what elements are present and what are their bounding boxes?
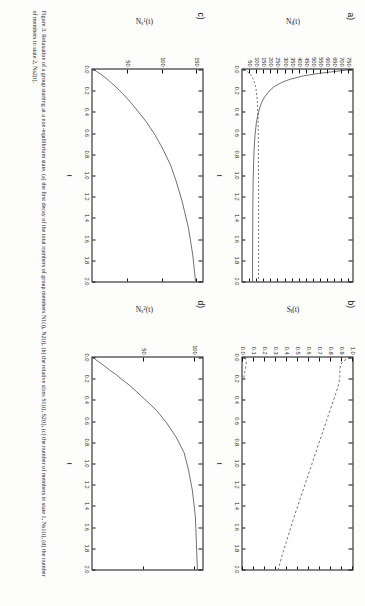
panel-a-label: a): [345, 12, 355, 20]
panel-d-xtick-mark: [92, 399, 96, 400]
panel-b-xtick-mark: [242, 399, 246, 400]
panel-c-xtick-mark-top: [199, 90, 203, 91]
panel-c-label: c): [195, 12, 205, 19]
panel-a-ytick-label: 300: [282, 57, 288, 69]
panel-b-xtick-mark-top: [349, 442, 353, 443]
panel-b-xtick-label: 0.4: [233, 396, 242, 404]
panel-b-xtick-mark-top: [349, 505, 353, 506]
panel-d-xtick-mark-top: [199, 378, 203, 379]
panel-c-ytick-mark-right: [126, 278, 127, 282]
panel-b-ytick-label: 0.3: [272, 346, 278, 357]
panel-c-plot-box: 50100150 0.00.20.40.60.81.01.21.41.61.82…: [91, 68, 203, 282]
panel-a-ytick-mark-right: [320, 278, 321, 282]
panel-d-xtick-mark: [92, 505, 96, 506]
panel-d-ytick-mark-right: [193, 566, 194, 570]
panel-c-xtick-mark-top: [199, 111, 203, 112]
panel-b-xtick-label: 0.2: [233, 374, 242, 382]
panel-b-xtick-label: 0.6: [233, 417, 242, 425]
panel-a-ytick-label: 550: [317, 57, 323, 69]
panel-a-xtick-label: 0.4: [233, 108, 242, 116]
panel-d-xtick-label: 0.2: [83, 374, 92, 382]
panel-d-ytick-mark: [193, 357, 194, 361]
panel-a-ytick-mark: [341, 69, 342, 73]
panel-a-ytick-mark-right: [348, 278, 349, 282]
panel-b-xtick-label: 1.0: [233, 459, 242, 467]
panel-b-ytick-mark-right: [319, 566, 320, 570]
panel-c-xtick-mark: [92, 196, 96, 197]
panel-d-xtick-mark-top: [199, 399, 203, 400]
panel-b-ytick-mark-right: [341, 566, 342, 570]
panel-a-xtick-mark-top: [349, 217, 353, 218]
panel-b: b) Si(t) 0.00.10.20.30.40.50.60.70.80.91…: [209, 300, 355, 576]
panel-b-xlabel: t: [214, 356, 223, 570]
panel-d-series-ns2: [93, 357, 197, 569]
panel-b-ytick-label: 1.0: [349, 346, 355, 357]
panel-b-xtick-mark: [242, 378, 246, 379]
panel-b-xtick-mark-top: [349, 357, 353, 358]
panel-a-ytick-mark-right: [341, 278, 342, 282]
panel-d-xtick-label: 1.2: [83, 480, 92, 488]
panel-b-label: b): [345, 300, 355, 308]
panel-b-xtick-mark: [242, 527, 246, 528]
panel-d-xtick-label: 0.0: [83, 353, 92, 361]
panel-a-xtick-mark-top: [349, 196, 353, 197]
panel-c-xtick-label: 0.2: [83, 86, 92, 94]
panel-a-xtick-mark: [242, 260, 246, 261]
panel-a-ytick-mark-right: [249, 278, 250, 282]
panel-a-xtick-mark: [242, 217, 246, 218]
panel-d-plot-box: 50100 0.00.20.40.60.81.01.21.41.61.82.0: [91, 356, 203, 570]
panel-d-xtick-mark: [92, 463, 96, 464]
panel-a-ytick-label: 50: [246, 60, 252, 69]
panel-a-ytick-mark-right: [305, 278, 306, 282]
panel-c-xtick-label: 0.8: [83, 150, 92, 158]
panel-a-plot-box: 5010015020025030035040045050055060065070…: [241, 68, 353, 282]
panel-c-ytick-label: 150: [193, 57, 199, 69]
panel-a-ytick-label: 650: [331, 57, 337, 69]
panel-a-curves: [242, 69, 352, 281]
panel-b-ytick-mark: [275, 357, 276, 361]
panel-b-ytick-mark: [308, 357, 309, 361]
panel-b-ytick-mark-right: [253, 566, 254, 570]
panel-b-ytick-label: 0.5: [294, 346, 300, 357]
panel-c-xtick-label: 1.0: [83, 171, 92, 179]
panel-a-ytick-mark: [270, 69, 271, 73]
panel-b-ytick-mark: [297, 357, 298, 361]
panel-c-xtick-mark: [92, 69, 96, 70]
panel-c-xtick-mark-top: [199, 175, 203, 176]
panel-c-xtick-mark: [92, 217, 96, 218]
panel-c-xtick-mark: [92, 133, 96, 134]
panel-a-xtick-mark: [242, 175, 246, 176]
panel-c-ytick-mark: [126, 69, 127, 73]
panel-a-ytick-mark-right: [263, 278, 264, 282]
panel-d-ytick-mark-right: [142, 566, 143, 570]
panel-b-ytick-mark: [286, 357, 287, 361]
panel-a-ytick-mark-right: [270, 278, 271, 282]
panel-d-xtick-mark: [92, 527, 96, 528]
panel-d-xlabel: t: [64, 356, 73, 570]
panel-c-xtick-mark: [92, 239, 96, 240]
panel-c-xtick-mark: [92, 175, 96, 176]
panel-b-xtick-mark-top: [349, 484, 353, 485]
panel-a-xtick-mark-top: [349, 69, 353, 70]
panel-a-ytick-mark: [256, 69, 257, 73]
panel-b-xtick-mark: [242, 548, 246, 549]
panel-b-xtick-mark: [242, 484, 246, 485]
panel-c-xtick-mark-top: [199, 239, 203, 240]
panel-b-xtick-mark-top: [349, 569, 353, 570]
panel-a-xtick-label: 1.2: [233, 192, 242, 200]
panel-b-ytick-mark-right: [286, 566, 287, 570]
panel-b-series-s2: [243, 357, 246, 378]
panel-b-xtick-mark-top: [349, 378, 353, 379]
panel-b-ytick-label: 0.8: [327, 346, 333, 357]
panel-c-xtick-mark-top: [199, 196, 203, 197]
panel-b-ytick-mark: [319, 357, 320, 361]
panel-b-xtick-mark: [242, 463, 246, 464]
panel-a-ytick-mark: [320, 69, 321, 73]
panel-d-xtick-mark: [92, 442, 96, 443]
panel-d-xtick-mark-top: [199, 421, 203, 422]
panel-c-ytick-label: 100: [159, 57, 165, 69]
panel-a-xtick-mark-top: [349, 281, 353, 282]
panel-d-xtick-mark-top: [199, 463, 203, 464]
panel-c-ytick-label: 50: [124, 60, 130, 69]
panel-b-xtick-label: 1.2: [233, 480, 242, 488]
